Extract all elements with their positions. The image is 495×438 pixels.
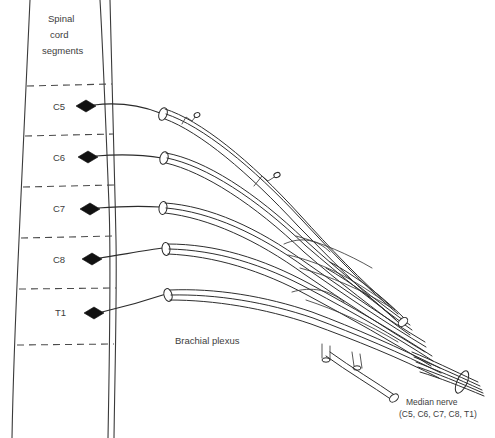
cord-left-edge <box>12 0 30 438</box>
cord-divider <box>17 344 114 345</box>
median-strand-5 <box>420 372 484 396</box>
nerve-c6-mid <box>167 158 412 330</box>
diagram-labels: Spinal cord segments C5 C6 C7 C8 T1 Brac… <box>42 13 477 419</box>
cord-title-line-3: segments <box>42 45 83 56</box>
nerve-c7-mid <box>166 208 426 347</box>
cord-title-line-2: cord <box>50 29 68 40</box>
nerve-root-c7 <box>158 201 426 352</box>
segment-label-t1: T1 <box>55 307 66 318</box>
nerve-c7-upper <box>165 203 425 342</box>
brachial-plexus-label: Brachial plexus <box>175 335 240 346</box>
nerve-lower-free-a <box>330 352 396 396</box>
tube-end-c6-branch <box>273 172 281 179</box>
root-stem-c6 <box>96 155 162 158</box>
nerve-c7-lower <box>165 213 425 352</box>
nerve-root-markers <box>76 100 104 319</box>
cord-divider <box>23 185 114 187</box>
root-stem-c7 <box>98 206 160 208</box>
brachial-plexus-diagram: Spinal cord segments C5 C6 C7 C8 T1 Brac… <box>0 0 495 438</box>
tube-end-c5-branch <box>193 112 200 119</box>
cord-inner-edge <box>100 0 110 438</box>
nerve-lower-free-b <box>326 356 392 400</box>
segment-label-c5: C5 <box>53 101 65 112</box>
cord-title-line-1: Spinal <box>48 13 74 24</box>
nerve-t1-upper <box>170 290 440 368</box>
nerve-branch-lower-free <box>326 352 400 404</box>
cord-right-edge <box>110 0 116 438</box>
root-marker-c8 <box>82 253 102 265</box>
cord-divider <box>19 288 116 289</box>
root-stem-t1 <box>102 294 166 312</box>
segment-label-c8: C8 <box>53 254 65 265</box>
tube-end-lower-free <box>388 392 400 404</box>
median-nerve-bundle <box>412 352 484 396</box>
diagram-canvas: Spinal cord segments C5 C6 C7 C8 T1 Brac… <box>0 0 495 438</box>
nerve-root-c6 <box>158 151 412 335</box>
root-stem-c5 <box>94 104 160 113</box>
cord-divider <box>25 134 113 136</box>
root-marker-t1 <box>84 307 104 319</box>
root-marker-c7 <box>80 203 100 215</box>
nerve-root-c8 <box>161 242 433 366</box>
median-strand-3 <box>416 362 482 390</box>
nerve-root-t1 <box>163 288 441 378</box>
nerve-c6-upper <box>166 153 410 325</box>
root-marker-c6 <box>78 151 98 163</box>
plexus-interconnections <box>284 236 398 342</box>
spinal-cord-column <box>12 0 116 438</box>
nerve-branch-free <box>326 262 409 328</box>
cord-divider <box>21 236 115 238</box>
cord-segment-dividers <box>17 84 116 345</box>
nerve-root-stems <box>94 104 166 312</box>
cord-divider <box>27 84 112 86</box>
root-marker-c5 <box>76 100 96 112</box>
nerve-t1-mid <box>171 295 441 373</box>
median-nerve-cross-section <box>453 369 472 395</box>
segment-label-c7: C7 <box>53 203 65 214</box>
median-nerve-label: Median nerve <box>406 397 458 407</box>
median-nerve-roots-label: (C5, C6, C7, C8, T1) <box>399 409 477 419</box>
segment-label-c6: C6 <box>53 152 65 163</box>
